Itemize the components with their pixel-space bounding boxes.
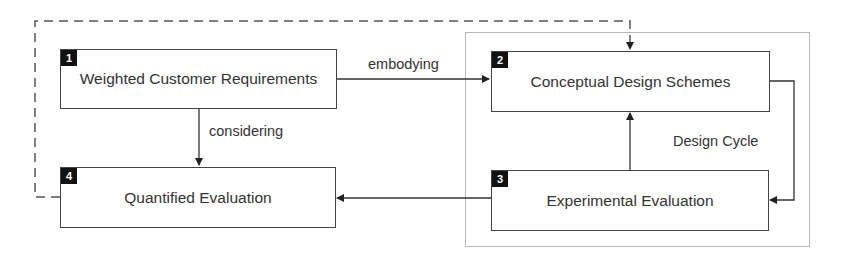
node-conceptual-design-schemes: 2 Conceptual Design Schemes [491,51,770,112]
node-weighted-customer-requirements: 1 Weighted Customer Requirements [60,49,337,109]
node-label: Weighted Customer Requirements [80,70,318,88]
edge-label-considering: considering [209,123,283,139]
edge-label-embodying: embodying [368,56,439,72]
node-experimental-evaluation: 3 Experimental Evaluation [491,170,769,231]
node-number-badge: 4 [61,168,77,184]
node-label: Conceptual Design Schemes [531,73,731,91]
group-label-design-cycle: Design Cycle [673,133,758,149]
node-label: Quantified Evaluation [124,189,271,207]
node-number-badge: 1 [61,50,77,66]
node-number-badge: 3 [492,171,508,187]
node-label: Experimental Evaluation [546,192,713,210]
conceptual-to-experimental-connector [769,81,794,200]
node-quantified-evaluation: 4 Quantified Evaluation [60,167,336,228]
node-number-badge: 2 [492,52,508,68]
